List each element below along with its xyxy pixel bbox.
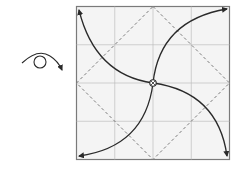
origami-diagram <box>0 0 237 170</box>
turn-over-icon <box>22 53 62 70</box>
pinch-point-icon <box>150 80 156 86</box>
